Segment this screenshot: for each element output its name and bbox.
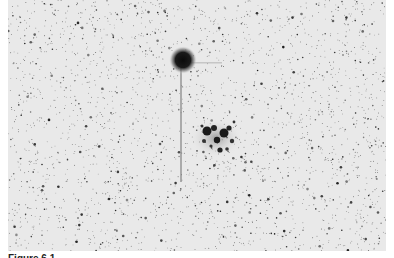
comet-head [169, 46, 197, 74]
figure-caption: Figure 6.1 [8, 253, 388, 258]
comet-tail [180, 62, 182, 182]
astronomical-photograph [8, 0, 386, 251]
star-field [8, 0, 386, 251]
figure-label: Figure 6.1 [8, 253, 55, 258]
